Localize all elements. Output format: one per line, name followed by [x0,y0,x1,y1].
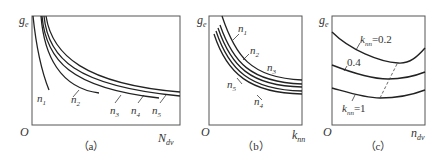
origin-label: O [201,125,210,139]
curve-n4 [44,16,180,96]
x-axis-label: ndv [411,126,425,142]
panel-a: ge O Ndv n1 n2 n3 n4 n5 （a） [19,13,180,152]
curve-n5 [46,16,180,92]
y-axis-label: ge [197,13,207,29]
curve-label-knn-1: knn=1 [342,102,366,117]
origin-label: O [323,125,332,139]
panel-c: ge O ndv knn=0.2 0.4 knn=1 （c） [319,13,425,152]
panel-a-frame [32,16,180,125]
caption-a: （a） [78,140,105,152]
origin-label: O [20,125,29,139]
leader-n2 [243,54,249,60]
figure-canvas: ge O Ndv n1 n2 n3 n4 n5 （a） ge O knn n1 … [0,0,443,163]
curve-label-n5: n5 [227,78,237,93]
curve-label-n2: n2 [250,44,260,59]
optimum-locus-dashed [380,64,397,98]
leader-n3 [115,95,121,103]
y-axis-label: ge [19,13,29,29]
leader-n1 [233,34,239,40]
curve-label-n3: n3 [110,104,120,119]
curve-n2 [220,25,302,84]
curve-label-n4: n4 [131,104,141,119]
curve-n1 [33,16,49,90]
curve-knn-1 [332,88,425,98]
panel-b: ge O knn n1 n2 n3 n4 n5 （b） [197,13,305,152]
caption-c: （c） [365,140,392,152]
curve-label-n1: n1 [37,92,46,107]
curve-n3 [42,16,159,98]
leader-knn-1 [352,95,355,101]
x-axis-label: Ndv [157,131,174,147]
curve-label-n1: n1 [238,22,247,37]
curve-label-n2: n2 [71,93,81,108]
leader-n5 [237,78,242,84]
leader-n5 [160,95,166,103]
curve-label-n4: n4 [254,95,264,110]
y-axis-label: ge [319,13,329,29]
curve-label-knn-0.2: knn=0.2 [360,33,392,48]
curve-label-n5: n5 [152,104,162,119]
curve-label-knn-0.4: 0.4 [347,56,361,68]
caption-b: （b） [242,140,270,152]
x-axis-label: knn [292,128,305,144]
